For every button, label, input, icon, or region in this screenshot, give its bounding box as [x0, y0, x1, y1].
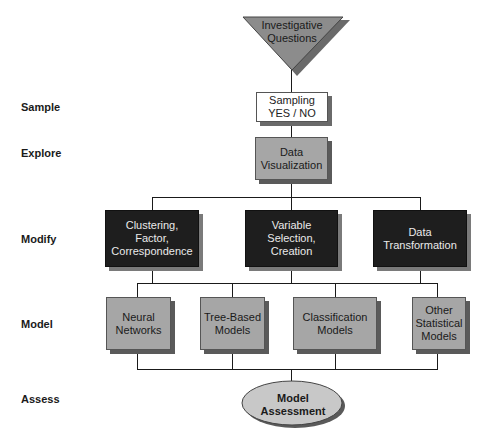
stage-label-assess: Assess [21, 393, 60, 405]
connector [437, 350, 438, 369]
data-visualization-label: Data Visualization [261, 146, 323, 172]
connector [291, 267, 292, 283]
connector [335, 350, 336, 369]
classification-models-label: Classification Models [303, 311, 368, 337]
connector [335, 283, 336, 297]
stage-label-modify: Modify [21, 233, 56, 245]
connector [291, 180, 292, 197]
sampling-label: Sampling YES / NO [268, 94, 316, 120]
connector [232, 350, 233, 369]
connector [420, 197, 421, 210]
data-transformation-box: Data Transformation [373, 210, 467, 267]
connector [420, 267, 421, 283]
tree-based-models-label: Tree-Based Models [204, 311, 261, 337]
stage-label-model: Model [21, 318, 53, 330]
connector [437, 283, 438, 297]
connector [137, 283, 138, 297]
connector [152, 197, 421, 198]
model-assessment-label: Model Assessment [240, 392, 346, 418]
connector [291, 197, 292, 210]
connector [137, 350, 138, 369]
connector [152, 267, 153, 283]
other-statistical-models-box: Other Statistical Models [412, 297, 466, 350]
classification-models-box: Classification Models [293, 297, 377, 350]
stage-label-explore: Explore [21, 147, 61, 159]
other-statistical-models-label: Other Statistical Models [415, 304, 462, 343]
connector [152, 197, 153, 210]
stage-label-sample: Sample [21, 101, 60, 113]
tree-based-models-box: Tree-Based Models [200, 297, 265, 350]
variable-selection-label: Variable Selection, Creation [267, 219, 315, 258]
neural-networks-box: Neural Networks [106, 297, 171, 350]
variable-selection-box: Variable Selection, Creation [245, 210, 338, 267]
clustering-label: Clustering, Factor, Correspondence [111, 219, 192, 258]
data-transformation-label: Data Transformation [383, 226, 457, 252]
connector [232, 283, 233, 297]
connector [137, 283, 437, 284]
sampling-box: Sampling YES / NO [256, 92, 328, 122]
neural-networks-label: Neural Networks [116, 311, 162, 337]
data-visualization-box: Data Visualization [255, 137, 328, 180]
investigative-questions-label: Investigative Questions [243, 19, 341, 45]
connector [137, 369, 438, 370]
clustering-box: Clustering, Factor, Correspondence [105, 210, 199, 267]
connector [291, 122, 292, 137]
